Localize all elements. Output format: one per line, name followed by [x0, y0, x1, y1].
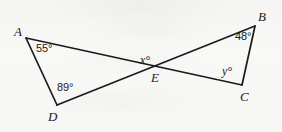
angle-label-C: y° — [222, 65, 232, 77]
geometry-figure: A B C D E 55° 89° 48° y° x° — [0, 0, 282, 132]
vertex-label-B: B — [258, 10, 266, 23]
angle-label-B: 48° — [235, 31, 251, 42]
vertex-label-C: C — [240, 90, 249, 103]
segment-AC — [26, 38, 242, 85]
angle-label-D: 89° — [57, 82, 73, 93]
vertex-label-D: D — [48, 110, 58, 123]
vertex-label-A: A — [14, 25, 22, 38]
angle-label-A: 55° — [36, 43, 52, 54]
vertex-label-E: E — [151, 71, 159, 84]
angle-label-E: x° — [140, 54, 150, 66]
